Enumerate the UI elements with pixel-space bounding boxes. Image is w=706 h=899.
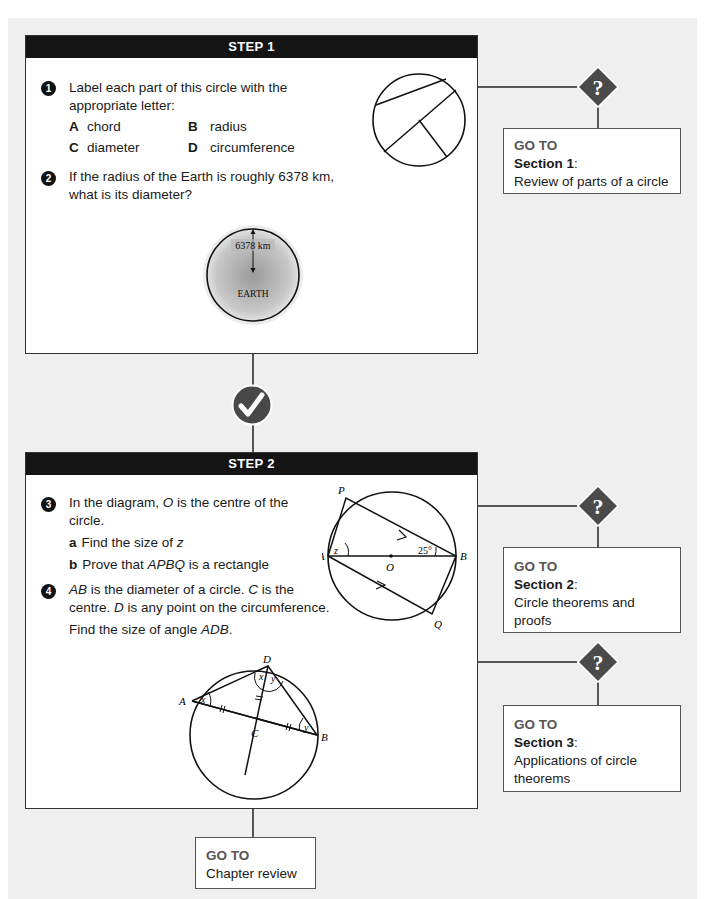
q1-text-line2: appropriate letter: (69, 98, 175, 113)
q3-text: In the diagram, O is the centre of the c… (69, 494, 319, 530)
question-diamond-icon-2: ? (577, 485, 619, 527)
question-number-4: 4 (41, 584, 56, 599)
q3-part-a-letter: a (69, 535, 77, 550)
q2-text-line1: If the radius of the Earth is roughly 63… (69, 169, 334, 184)
connector-diamond3-to-goto3 (597, 682, 599, 706)
connector-step2-to-q2 (477, 505, 577, 507)
question-number-2: 2 (41, 171, 56, 186)
option-a: Achord (69, 119, 121, 134)
goto-section-name: Section 2 (514, 577, 574, 592)
label-p: P (337, 486, 345, 496)
q3-part-a-var: z (177, 535, 184, 550)
goto-section-name: Section 3 (514, 735, 574, 750)
q3-part-a: aFind the size of z (69, 534, 184, 552)
step1-header: STEP 1 (26, 36, 477, 58)
q4-var-ab: AB (69, 582, 87, 597)
earth-label: EARTH (237, 289, 268, 299)
q3-part-b-text: Prove that (82, 557, 147, 572)
goto-label: GO TO (514, 716, 670, 734)
label-c: C (251, 727, 259, 739)
label-o: O (386, 561, 394, 573)
connector-step2-to-chapter-review (252, 808, 254, 838)
q4-text-3c: . (229, 622, 233, 637)
q3-text-pre: In the diagram, (69, 495, 163, 510)
connector-step2-to-q3 (477, 661, 577, 663)
q2-text: If the radius of the Earth is roughly 63… (69, 168, 379, 204)
q3-text-post: is the centre of the (173, 495, 288, 510)
label-b2: B (321, 731, 328, 743)
q3-part-b: bProve that APBQ is a rectangle (69, 556, 269, 574)
label-d: D (262, 655, 271, 665)
step2-header: STEP 2 (26, 453, 477, 475)
goto-description: Circle theorems and proofs (514, 594, 664, 630)
option-a-letter: A (69, 119, 87, 134)
label-y-b: y (303, 722, 309, 733)
q4-text-2a: centre. (69, 600, 114, 615)
goto-description: Applications of circle theorems (514, 752, 664, 788)
option-b-letter: B (188, 119, 210, 134)
goto-label: GO TO (206, 847, 305, 865)
q1-text-line1: Label each part of this circle with the (69, 80, 287, 95)
q4-var-adb: ADB (201, 622, 229, 637)
earth-radius-label: 6378 km (235, 240, 271, 251)
option-d-label: circumference (210, 140, 295, 155)
question-diamond-icon-1: ? (577, 66, 619, 108)
connector-diamond1-to-goto1 (597, 107, 599, 129)
circle-parts-diagram (365, 68, 475, 178)
earth-diagram: 6378 km EARTH (200, 222, 306, 328)
goto-section-1[interactable]: GO TO Section 1: Review of parts of a ci… (503, 128, 681, 194)
label-b: B (460, 550, 467, 562)
question-mark: ? (593, 650, 604, 675)
q4-find: Find the size of angle ADB. (69, 621, 233, 639)
option-b-label: radius (210, 119, 247, 134)
q4-text-2c: is any point on the circumference. (124, 600, 330, 615)
q4-text: AB is the diameter of a circle. C is the… (69, 581, 389, 617)
option-b: Bradius (188, 119, 247, 134)
q4-text-1d: is the (258, 582, 294, 597)
option-d-letter: D (188, 140, 210, 155)
goto-chapter-review[interactable]: GO TO Chapter review (195, 837, 316, 889)
q4-var-c: C (248, 582, 258, 597)
q3-text-line2: circle. (69, 513, 104, 528)
q3-part-b-var: APBQ (148, 557, 186, 572)
question-number-1: 1 (41, 81, 56, 96)
option-d: Dcircumference (188, 140, 295, 155)
q4-text-1b: is the diameter of a circle. (87, 582, 248, 597)
connector-step1-to-q1 (477, 86, 577, 88)
goto-section-2[interactable]: GO TO Section 2: Circle theorems and pro… (503, 547, 681, 633)
q3-var-o: O (163, 495, 174, 510)
q4-text-3a: Find the size of angle (69, 622, 201, 637)
question-diamond-icon-3: ? (577, 641, 619, 683)
question-number-3: 3 (41, 497, 56, 512)
option-c: Cdiameter (69, 140, 140, 155)
goto-section-3[interactable]: GO TO Section 3: Applications of circle … (503, 705, 681, 792)
goto-label: GO TO (514, 558, 670, 576)
label-z: z (333, 545, 338, 556)
label-x-d: x (258, 671, 264, 682)
q2-text-line2: what is its diameter? (69, 187, 192, 202)
connector-diamond2-to-goto2 (597, 526, 599, 548)
label-q: Q (434, 618, 442, 630)
goto-label: GO TO (514, 137, 670, 155)
label-a2: A (178, 695, 186, 707)
q3-part-b-post: is a rectangle (185, 557, 269, 572)
question-mark: ? (593, 494, 604, 519)
q4-var-d: D (114, 600, 124, 615)
option-c-label: diameter (87, 140, 140, 155)
question-mark: ? (593, 75, 604, 100)
label-x-a: x (200, 694, 206, 705)
label-a: A (322, 550, 325, 562)
goto-section-name: Section 1 (514, 156, 574, 171)
goto-description: Chapter review (206, 865, 305, 883)
goto-description: Review of parts of a circle (514, 173, 670, 191)
label-y-d: y (270, 673, 276, 684)
option-c-letter: C (69, 140, 87, 155)
triangle-in-circle-diagram: D A B C x y x y (175, 655, 335, 807)
option-a-label: chord (87, 119, 121, 134)
q3-part-a-text: Find the size of (82, 535, 177, 550)
q3-part-b-letter: b (69, 557, 77, 572)
check-icon (231, 384, 273, 426)
q1-text: Label each part of this circle with the … (69, 79, 349, 115)
label-angle-25: 25° (418, 545, 432, 556)
